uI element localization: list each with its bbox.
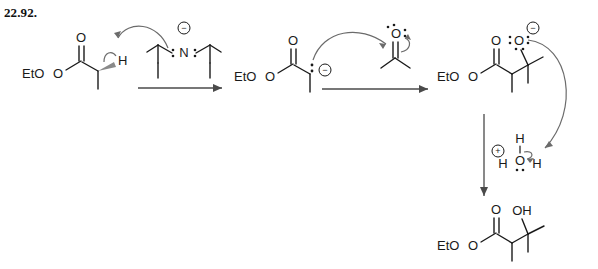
- eto-label-product: EtO: [437, 238, 459, 253]
- curved-arrow-head-carbanion: [379, 43, 386, 49]
- structure-acetone: O: [381, 24, 411, 68]
- negative-charge-sign-lda: −: [181, 23, 186, 33]
- bond-N-isopropylR-CH: [196, 45, 210, 53]
- carbonyl-oxygen-label-acetone: O: [391, 26, 401, 41]
- lone-pair-dot-hydronium-2: [522, 169, 525, 172]
- bond-N-isopropylL-CH: [158, 45, 172, 53]
- bond-carbonylC-alphaC-product: [497, 234, 512, 243]
- carbonyl-oxygen-label-alkoxide: O: [491, 33, 501, 48]
- hydronium-h-top: H: [515, 131, 524, 146]
- bond-esterO-carbonylC: [66, 61, 81, 70]
- reaction-arrow-1-head: [213, 84, 222, 92]
- curved-arrow-pi-to-oxygen: [401, 38, 410, 52]
- bond-quaternaryC-alkoxideO: [521, 50, 528, 65]
- bond-quaternaryC-methyl-1-product: [528, 226, 544, 234]
- wedge-alphaC-to-H: [98, 62, 116, 71]
- structure-hydronium-ion: H O H H +: [492, 131, 542, 171]
- lone-pair-dot-alkoxide-2: [509, 42, 512, 45]
- bond-isopropylL-methyl-a: [147, 45, 158, 52]
- carbonyl-oxygen-label-reactant: O: [76, 30, 86, 45]
- bond-alphaC-quaternaryC: [512, 65, 528, 74]
- reaction-scheme-canvas: 22.92. EtO O O H N: [0, 0, 598, 269]
- curved-arrow-CH-bond: [104, 53, 116, 62]
- bond-esterO-to-carbonylC: [481, 64, 496, 73]
- bond-alphaC-quaternaryC-product: [512, 234, 528, 243]
- alpha-hydrogen-label: H: [118, 53, 127, 68]
- bond-esterO-carbonylC-product: [481, 233, 496, 242]
- structure-ethyl-propanoate: EtO O O H: [22, 30, 127, 89]
- eto-label-enolate: EtO: [234, 69, 256, 84]
- lone-pair-dot-hydronium-1: [516, 169, 519, 172]
- positive-charge-sign-hydronium: +: [495, 146, 500, 156]
- bond-esterO-carbonylC-enolate: [278, 64, 293, 73]
- reaction-arrow-1: [138, 84, 222, 92]
- ester-oxygen-label-product: O: [468, 238, 478, 253]
- curved-arrow-N-to-H: [118, 26, 168, 48]
- bond-carbonylC-alphaC-alkoxide: [497, 65, 512, 74]
- problem-number: 22.92.: [4, 5, 37, 21]
- curved-arrow-head-alkoxide-to-hydronium: [545, 141, 553, 148]
- bond-isopropylR-methyl-a: [210, 45, 221, 52]
- lone-pair-dot-alkoxide-3: [527, 36, 530, 39]
- structure-lda-base: N −: [114, 22, 221, 78]
- ester-oxygen-label-enolate: O: [265, 69, 275, 84]
- bond-acetone-methyl-right: [395, 58, 410, 68]
- negative-charge-sign-enolate: −: [322, 65, 327, 75]
- curved-arrow-alkoxide-to-hydronium: [528, 40, 566, 148]
- bond-carbonylC-alphaC: [82, 62, 98, 71]
- lone-pair-dot-lda-right-1: [194, 49, 197, 52]
- lone-pair-dot-alkoxide-1: [509, 36, 512, 39]
- lone-pair-dot-acetone-top-1: [387, 26, 390, 29]
- curved-arrow-carbanion-to-acetone: [313, 32, 386, 60]
- bond-carbonylC-carbanionC: [294, 65, 310, 74]
- lone-pair-dot-lda-left-1: [172, 49, 175, 52]
- reaction-arrow-3-vertical: [480, 114, 488, 196]
- lone-pair-dot-carbanion-2: [311, 70, 314, 73]
- lone-pair-dot-alkoxide-4: [527, 42, 530, 45]
- lone-pair-dot-carbanion-1: [311, 64, 314, 67]
- hydronium-oxygen-label: O: [515, 153, 525, 168]
- lone-pair-dot-lda-left-2: [172, 55, 175, 58]
- structure-alkoxide-intermediate: EtO O O: [437, 22, 566, 148]
- structure-ester-enolate: EtO O O −: [234, 32, 386, 92]
- reaction-scheme-drawing: EtO O O H N: [0, 0, 598, 269]
- carbonyl-oxygen-label-enolate: O: [288, 33, 298, 48]
- negative-charge-sign-alkoxide: −: [530, 23, 535, 33]
- curved-arrow-OH-to-O: [524, 152, 532, 159]
- reaction-arrow-3-head: [480, 187, 488, 196]
- reaction-arrow-2: [322, 85, 428, 93]
- lone-pair-dot-lda-right-2: [194, 55, 197, 58]
- structure-product: EtO O O OH: [437, 202, 544, 261]
- hydroxyl-label-product: OH: [512, 203, 532, 218]
- hydronium-h-left: H: [498, 156, 507, 171]
- bond-quaternaryC-OH: [522, 219, 528, 234]
- alkoxide-oxygen-label: O: [514, 33, 524, 48]
- carbonyl-oxygen-label-product: O: [491, 202, 501, 217]
- eto-label-alkoxide: EtO: [437, 69, 459, 84]
- bond-acetone-methyl-left: [381, 58, 395, 68]
- bond-quaternaryC-methyl-1: [528, 57, 543, 65]
- lone-pair-dot-alkoxide-5: [515, 48, 518, 51]
- ester-oxygen-label-alkoxide: O: [468, 69, 478, 84]
- eto-label-reactant: EtO: [22, 66, 44, 81]
- lone-pair-dot-acetone-right-1: [404, 29, 407, 32]
- ester-oxygen-label-reactant: O: [53, 66, 63, 81]
- nitrogen-label-lda: N: [179, 45, 188, 60]
- reaction-arrow-2-head: [419, 85, 428, 93]
- lone-pair-dot-acetone-top-2: [393, 24, 396, 27]
- lone-pair-dot-alkoxide-6: [522, 48, 525, 51]
